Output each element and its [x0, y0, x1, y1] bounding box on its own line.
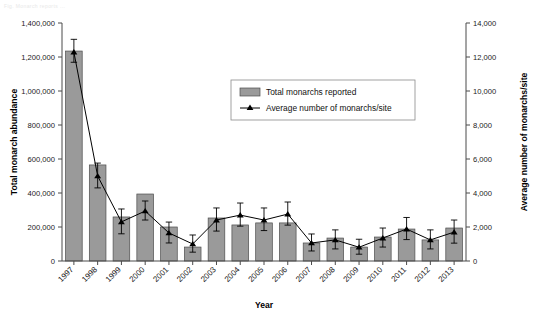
- figure-caption: Fig. Monarch reports ...: [0, 0, 541, 12]
- x-axis-tick-label: 2000: [128, 265, 147, 284]
- legend-label-bars: Total monarchs reported: [266, 87, 357, 97]
- x-axis-tick-label: 2003: [199, 265, 218, 284]
- bar: [279, 223, 296, 261]
- right-axis-tick-label: 0: [473, 257, 477, 266]
- left-axis: 0200,000400,000600,000800,0001,000,0001,…: [21, 19, 62, 266]
- left-axis-tick-label: 800,000: [28, 121, 55, 130]
- left-axis-tick-label: 0: [51, 257, 55, 266]
- right-axis: 02,0004,0006,0008,00010,00012,00014,000: [466, 19, 496, 266]
- right-axis-tick-label: 4,000: [473, 189, 492, 198]
- x-axis-tick-label: 2008: [318, 265, 337, 284]
- x-axis-tick-label: 2005: [246, 265, 265, 284]
- monarch-abundance-chart: 0200,000400,000600,000800,0001,000,0001,…: [0, 0, 541, 315]
- x-axis-tick-label: 1998: [80, 265, 99, 284]
- chart-legend: Total monarchs reported Average number o…: [231, 80, 415, 120]
- legend-box: [231, 80, 415, 120]
- left-axis-tick-label: 1,400,000: [21, 19, 55, 28]
- x-axis-tick-label: 2004: [223, 265, 242, 284]
- bar: [232, 225, 249, 261]
- x-axis-title: Year: [255, 300, 274, 310]
- x-axis-tick-label: 1997: [56, 265, 75, 284]
- x-axis: 1997199819992000200120022003200420052006…: [56, 261, 466, 284]
- x-axis-tick-label: 2010: [365, 265, 384, 284]
- x-axis-tick-label: 2012: [413, 265, 432, 284]
- right-axis-tick-label: 12,000: [473, 53, 496, 62]
- left-axis-tick-label: 200,000: [28, 223, 55, 232]
- left-axis-tick-label: 1,000,000: [21, 87, 55, 96]
- right-axis-tick-label: 10,000: [473, 87, 496, 96]
- figure-container: Fig. Monarch reports ... 0200,000400,000…: [0, 0, 541, 315]
- x-axis-tick-label: 2009: [342, 265, 361, 284]
- right-axis-tick-label: 6,000: [473, 155, 492, 164]
- x-axis-tick-label: 2002: [175, 265, 194, 284]
- left-axis-tick-label: 600,000: [28, 155, 55, 164]
- right-axis-tick-label: 2,000: [473, 223, 492, 232]
- y-axis-title: Total monarch abundance: [9, 89, 19, 196]
- legend-swatch-bars: [240, 88, 260, 96]
- x-axis-tick-label: 2006: [270, 265, 289, 284]
- legend-label-average: Average number of monarchs/site: [266, 103, 392, 113]
- x-axis-tick-label: 2001: [151, 265, 170, 284]
- right-axis-tick-label: 8,000: [473, 121, 492, 130]
- x-axis-tick-label: 2011: [389, 265, 408, 284]
- y2-axis-title: Average number of monarchs/site: [519, 72, 529, 211]
- x-axis-tick-label: 2013: [437, 265, 456, 284]
- x-axis-tick-label: 2007: [294, 265, 313, 284]
- x-axis-tick-label: 1999: [104, 265, 123, 284]
- left-axis-tick-label: 400,000: [28, 189, 55, 198]
- left-axis-tick-label: 1,200,000: [21, 53, 55, 62]
- right-axis-tick-label: 14,000: [473, 19, 496, 28]
